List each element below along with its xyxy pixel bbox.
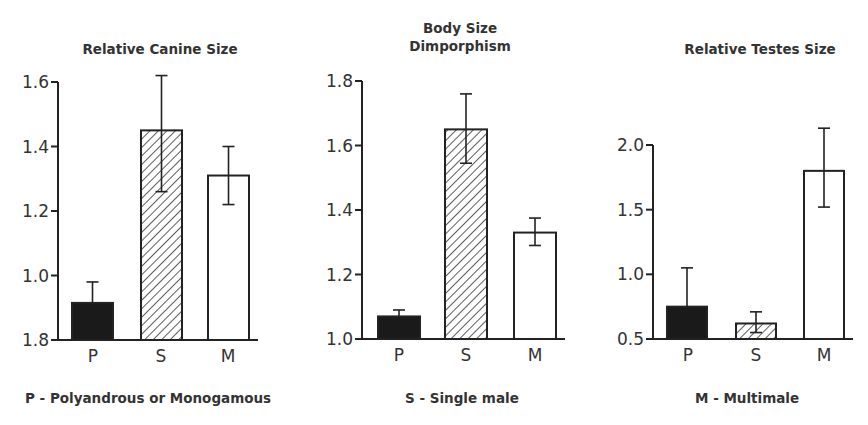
category-label-s: S bbox=[751, 345, 762, 365]
chart-relative-testes-size: 0.51.01.52.0PSM bbox=[617, 128, 853, 365]
category-label-p: P bbox=[394, 345, 404, 365]
legend-p: P - Polyandrous or Monogamous bbox=[25, 390, 271, 406]
bar-p bbox=[667, 307, 707, 339]
y-tick-label: 1.2 bbox=[22, 201, 49, 221]
category-label-p: P bbox=[683, 345, 693, 365]
bar-m bbox=[514, 233, 556, 339]
category-label-p: P bbox=[88, 346, 98, 366]
y-tick-label: 1.4 bbox=[326, 200, 353, 220]
bar-p bbox=[72, 303, 113, 340]
y-tick-label: 1.6 bbox=[22, 72, 49, 92]
category-label-s: S bbox=[461, 345, 472, 365]
y-tick-label: 1.6 bbox=[326, 136, 353, 156]
chart-relative-canine-size: 1.81.01.21.41.6PSM bbox=[22, 72, 258, 366]
chart-body-size-dimorphism: 1.01.21.41.61.8PSM bbox=[326, 71, 565, 365]
y-tick-label: 0.5 bbox=[617, 329, 644, 349]
category-label-s: S bbox=[156, 346, 167, 366]
y-tick-label: 1.8 bbox=[22, 330, 49, 350]
y-tick-label: 2.0 bbox=[617, 135, 644, 155]
y-tick-label: 1.8 bbox=[326, 71, 353, 91]
legend-m: M - Multimale bbox=[695, 390, 799, 406]
category-label-m: M bbox=[221, 346, 236, 366]
charts-canvas: 1.81.01.21.41.6PSM 1.01.21.41.61.8PSM 0.… bbox=[0, 0, 868, 425]
y-tick-label: 1.0 bbox=[617, 264, 644, 284]
y-tick-label: 1.0 bbox=[326, 329, 353, 349]
bar-p bbox=[378, 316, 420, 339]
legend-s: S - Single male bbox=[405, 390, 519, 406]
y-tick-label: 1.5 bbox=[617, 200, 644, 220]
y-tick-label: 1.4 bbox=[22, 137, 49, 157]
category-label-m: M bbox=[528, 345, 543, 365]
y-tick-label: 1.2 bbox=[326, 265, 353, 285]
category-label-m: M bbox=[817, 345, 832, 365]
y-tick-label: 1.0 bbox=[22, 266, 49, 286]
